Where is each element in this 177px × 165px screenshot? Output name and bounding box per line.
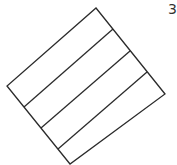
strip-divider-line: [24, 29, 113, 107]
rectangle-outline: [7, 8, 165, 164]
strip-dividers: [24, 29, 147, 149]
striped-rotated-rectangle: [0, 0, 177, 165]
strip-divider-line: [41, 51, 130, 128]
strip-divider-line: [58, 72, 147, 149]
diagram-canvas: 3: [0, 0, 177, 165]
corner-number-label: 3: [168, 1, 177, 17]
